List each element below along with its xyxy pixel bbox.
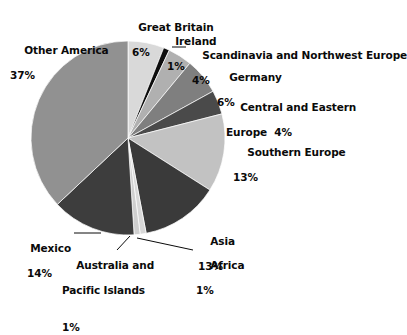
slice-label-mexico-pct: 14% bbox=[27, 267, 71, 280]
slice-label-germany-name: Germany bbox=[229, 71, 282, 83]
slice-label-other-america-pct: 37% bbox=[10, 69, 109, 82]
slice-label-southern-europe-name: Southern Europe bbox=[247, 146, 345, 158]
slice-label-australia: Australia and Pacific Islands 1% bbox=[62, 246, 154, 335]
slice-label-africa-name: Africa bbox=[210, 259, 244, 271]
slice-label-mexico-name: Mexico bbox=[30, 242, 71, 254]
slice-label-australia-line1: Australia and bbox=[76, 259, 154, 271]
slice-label-africa-pct: 1% bbox=[196, 284, 244, 297]
slice-label-australia-pct: 1% bbox=[62, 321, 154, 334]
slice-label-asia-name: Asia bbox=[210, 235, 235, 247]
slice-label-australia-line2: Pacific Islands bbox=[62, 284, 154, 297]
slice-label-africa: Africa 1% bbox=[196, 246, 244, 321]
slice-label-southern-europe-pct: 13% bbox=[233, 171, 346, 184]
slice-label-southern-europe: Southern Europe 13% bbox=[233, 133, 346, 208]
slice-label-central-eastern-europe-line1: Central and Eastern bbox=[240, 101, 356, 113]
slice-label-other-america: Other America 37% bbox=[10, 31, 109, 106]
slice-label-other-america-name: Other America bbox=[24, 44, 108, 56]
slice-label-mexico: Mexico 14% bbox=[16, 229, 71, 304]
